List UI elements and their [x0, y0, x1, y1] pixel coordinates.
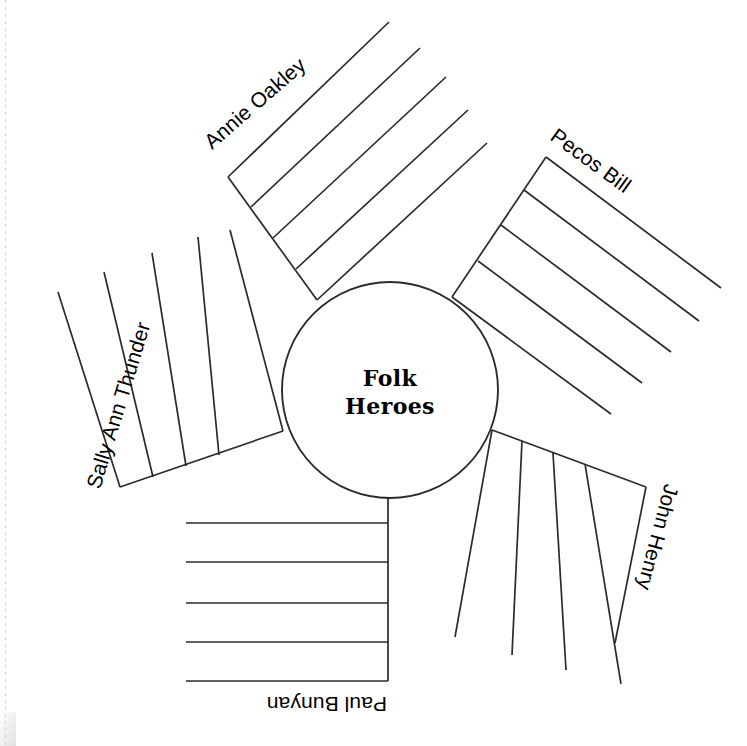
spoke-sally-ann-thunder-line-3: [152, 253, 186, 466]
spoke-john-henry-line-2: [512, 441, 522, 655]
spoke-john-henry-line-3: [553, 453, 566, 670]
spoke-john-henry: John Henry: [455, 430, 683, 684]
spoke-sally-ann-thunder-line-4: [198, 237, 219, 455]
spoke-paul-bunyan: Paul Bunyan: [186, 498, 388, 716]
folk-heroes-graphic-organizer: Annie Oakley Pecos Bill John Henry: [0, 0, 747, 746]
spoke-john-henry-line-4: [585, 464, 621, 684]
spoke-john-henry-inner-edge: [492, 430, 646, 487]
spoke-annie-oakley-inner-edge: [228, 177, 317, 300]
spoke-label-sally-ann-thunder: Sally Ann Thunder: [82, 319, 155, 491]
center-title-line-2: Heroes: [345, 393, 435, 419]
spoke-label-paul-bunyan: Paul Bunyan: [267, 693, 387, 716]
spoke-label-annie-oakley: Annie Oakley: [200, 53, 311, 153]
spoke-pecos-bill-line-2: [524, 190, 699, 321]
spoke-pecos-bill-line-3: [501, 225, 671, 352]
spoke-annie-oakley: Annie Oakley: [200, 22, 487, 300]
center-title-line-1: Folk: [363, 365, 418, 391]
spoke-label-john-henry: John Henry: [633, 482, 683, 593]
spoke-annie-oakley-line-3: [273, 77, 446, 238]
scan-edge-artifact: [5, 0, 6, 746]
worksheet-page: Annie Oakley Pecos Bill John Henry: [0, 0, 747, 746]
spoke-label-pecos-bill: Pecos Bill: [547, 124, 636, 197]
spoke-annie-oakley-line-4: [296, 110, 468, 269]
scan-corner-shadow: [0, 712, 16, 746]
spoke-pecos-bill-line-4: [478, 261, 642, 383]
spoke-sally-ann-thunder-line-5: [230, 230, 283, 431]
spoke-annie-oakley-line-5: [317, 143, 487, 300]
spoke-sally-ann-thunder: Sally Ann Thunder: [58, 230, 283, 491]
